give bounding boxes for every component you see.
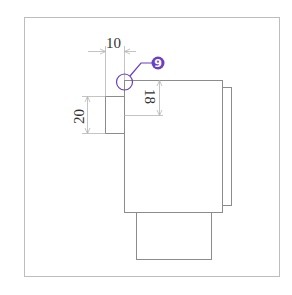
dimension-label-10: 10: [106, 35, 121, 51]
callout-leader-line: [130, 63, 152, 76]
main-body-outline: [125, 81, 223, 213]
dimension-label-18: 18: [142, 89, 158, 104]
right-strip-outline: [223, 88, 232, 206]
bottom-block-outline: [137, 213, 212, 260]
technical-drawing: 10 20 18 9: [0, 0, 292, 295]
left-tab-outline: [106, 97, 125, 134]
callout-badge[interactable]: 9: [152, 57, 165, 71]
callout-number: 9: [154, 57, 162, 70]
dimension-label-20: 20: [71, 109, 87, 124]
